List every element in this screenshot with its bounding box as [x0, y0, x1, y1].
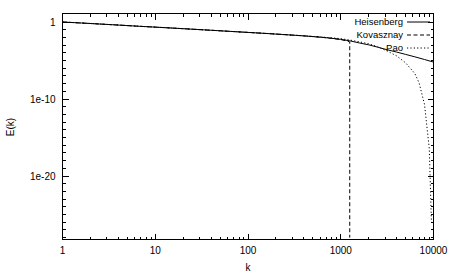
y-tick-label: 1	[50, 17, 56, 28]
legend-label-kovasznay: Kovasznay	[357, 29, 404, 40]
x-tick-label: 1000	[330, 245, 353, 256]
y-tick-label: 1e-20	[30, 171, 56, 182]
chart-legend: HeisenbergKovasznayPao	[354, 16, 430, 53]
series-kovasznay	[63, 22, 350, 238]
y-axis-minor-ticks	[63, 30, 434, 238]
series-heisenberg	[63, 22, 434, 62]
series-pao	[63, 22, 432, 222]
y-axis-title: E(k)	[5, 118, 16, 136]
y-axis-tick-labels: 11e-101e-20	[30, 17, 56, 182]
x-tick-label: 10	[150, 245, 162, 256]
x-tick-label: 10000	[420, 245, 448, 256]
x-axis-title: k	[246, 262, 252, 273]
legend-label-pao: Pao	[386, 42, 403, 53]
legend-label-heisenberg: Heisenberg	[354, 16, 403, 27]
y-axis-major-ticks	[63, 22, 434, 176]
energy-spectrum-chart: 110100100010000 11e-101e-20 k E(k) Heise…	[0, 0, 450, 277]
data-series-group	[63, 22, 434, 238]
x-tick-label: 1	[60, 245, 66, 256]
y-tick-label: 1e-10	[30, 94, 56, 105]
x-tick-label: 100	[240, 245, 257, 256]
x-axis-tick-labels: 110100100010000	[60, 245, 448, 256]
chart-figure: 110100100010000 11e-101e-20 k E(k) Heise…	[0, 0, 450, 277]
